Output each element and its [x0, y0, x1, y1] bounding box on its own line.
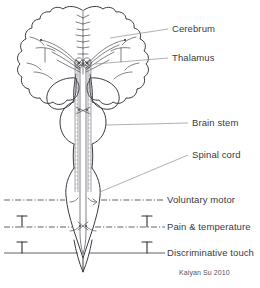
credit-line: Kaiyan Su 2010	[179, 269, 230, 276]
receptor-marker-left-touch	[17, 242, 27, 253]
level-pain-temperature	[4, 216, 165, 227]
label-voluntary-motor: Voluntary motor	[167, 195, 235, 205]
leader-brain-stem	[106, 123, 188, 125]
spinal-cord-outline	[66, 168, 100, 272]
anatomy-illustration	[0, 0, 260, 288]
label-pain-temperature: Pain & temperature	[167, 222, 251, 232]
cerebrum-right-hemisphere	[84, 6, 148, 104]
leader-spinal-cord	[100, 155, 188, 192]
brain-stem-outline	[60, 74, 106, 168]
label-spinal-cord: Spinal cord	[192, 150, 241, 160]
receptor-marker-left-pain	[17, 216, 27, 227]
brain-pathway-figure: Cerebrum Thalamus Brain stem Spinal cord…	[0, 0, 260, 288]
label-thalamus: Thalamus	[172, 53, 215, 63]
label-cerebrum: Cerebrum	[172, 24, 215, 34]
label-brain-stem: Brain stem	[192, 118, 238, 128]
receptor-marker-right-touch	[142, 242, 152, 253]
leader-thalamus	[95, 58, 168, 64]
cerebrum-left-hemisphere	[18, 6, 82, 104]
label-discriminative-touch: Discriminative touch	[167, 248, 254, 258]
receptor-marker-right-pain	[142, 216, 152, 227]
